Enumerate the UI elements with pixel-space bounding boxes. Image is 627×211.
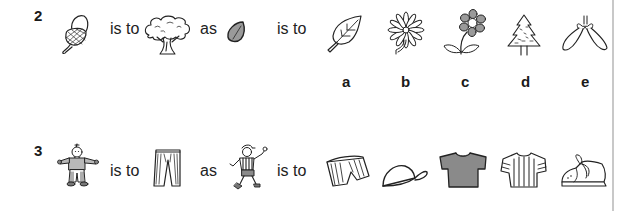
option-cap[interactable] bbox=[381, 160, 429, 190]
seed-icon bbox=[225, 20, 247, 44]
relation-text: is to bbox=[110, 162, 139, 180]
page-edge-divider bbox=[612, 0, 614, 211]
option-striped-shirt[interactable] bbox=[499, 151, 549, 189]
connector-text: as bbox=[200, 162, 217, 180]
option-label-e: e bbox=[581, 73, 589, 90]
option-e[interactable] bbox=[560, 14, 610, 54]
relation-text: is to bbox=[277, 20, 306, 38]
option-gray-tshirt[interactable] bbox=[438, 151, 488, 189]
daisy-icon bbox=[384, 12, 428, 56]
option-label-d: d bbox=[521, 73, 530, 90]
option-c[interactable] bbox=[443, 10, 489, 56]
acorn-icon bbox=[60, 12, 92, 54]
sycamore-seed-icon bbox=[560, 14, 610, 54]
connector-text: as bbox=[200, 20, 217, 38]
striped-shirt-icon bbox=[499, 151, 549, 189]
question-number: 3 bbox=[34, 142, 42, 159]
option-a[interactable] bbox=[325, 14, 365, 54]
shoe-icon bbox=[560, 154, 608, 188]
fir-tree-icon bbox=[504, 13, 544, 57]
option-label-b: b bbox=[401, 73, 410, 90]
relation-text: is to bbox=[277, 162, 306, 180]
option-shoe[interactable] bbox=[560, 154, 608, 188]
option-striped-shorts[interactable] bbox=[325, 154, 371, 188]
question-number: 2 bbox=[34, 7, 42, 24]
gray-tshirt-icon bbox=[438, 151, 488, 189]
option-b[interactable] bbox=[384, 12, 428, 56]
option-label-a: a bbox=[342, 73, 350, 90]
cap-icon bbox=[381, 160, 429, 190]
option-d[interactable] bbox=[504, 13, 544, 57]
striped-trousers-icon bbox=[152, 148, 184, 188]
leaf-icon bbox=[325, 14, 365, 54]
option-label-c: c bbox=[461, 73, 469, 90]
footballer-icon bbox=[228, 144, 270, 190]
clown-icon bbox=[57, 142, 99, 188]
striped-shorts-icon bbox=[325, 154, 371, 188]
flower-icon bbox=[443, 10, 489, 56]
oak-tree-icon bbox=[143, 13, 193, 55]
relation-text: is to bbox=[110, 20, 139, 38]
